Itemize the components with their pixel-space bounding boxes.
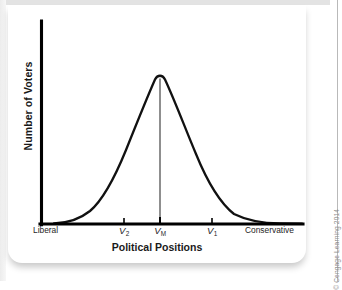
- voter-distribution-curve: [54, 76, 302, 224]
- x-axis-tick-label-vm: VM: [147, 225, 173, 236]
- tick-label-v2-subscript: 2: [126, 230, 130, 237]
- y-axis-title: Number of Voters: [22, 46, 34, 166]
- tick-label-vm-base: V: [154, 225, 160, 236]
- chart-plot-area: Number of Voters Liberal Conservative V2…: [8, 5, 306, 263]
- page-left-band: [0, 0, 6, 281]
- x-axis-tick-label-v2: V2: [111, 225, 137, 236]
- x-axis-label-liberal: Liberal: [33, 225, 58, 235]
- copyright-notice: © Cengage Learning 2014: [333, 209, 340, 290]
- x-axis-label-conservative: Conservative: [245, 225, 294, 235]
- x-axis-title: Political Positions: [8, 241, 306, 253]
- tick-label-v2-base: V: [119, 225, 125, 236]
- figure-card: Number of Voters Liberal Conservative V2…: [8, 5, 306, 263]
- tick-label-v1-base: V: [207, 225, 213, 236]
- tick-label-v1-subscript: 1: [214, 230, 218, 237]
- tick-label-vm-subscript: M: [161, 230, 166, 237]
- x-axis-tick-label-v1: V1: [199, 225, 225, 236]
